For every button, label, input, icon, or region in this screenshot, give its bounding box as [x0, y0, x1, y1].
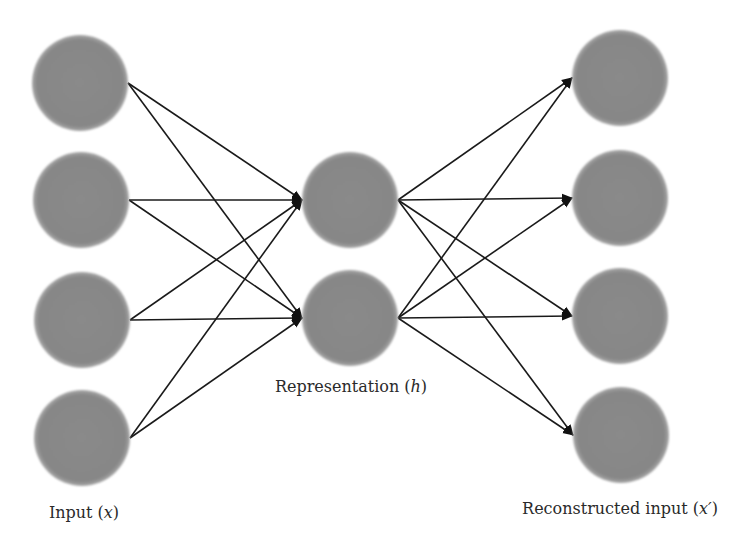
connection-arrow	[128, 83, 302, 200]
input-node-2	[33, 152, 129, 248]
network-graph	[0, 0, 750, 552]
representation-node-2	[302, 270, 398, 366]
reconstructed-node-4	[573, 387, 669, 483]
reconstructed-layer-label: Reconstructed input (x′)	[522, 499, 718, 518]
connection-arrow	[398, 198, 572, 318]
input-node-1	[32, 35, 128, 131]
reconstructed-node-2	[572, 150, 668, 246]
connection-arrow	[398, 316, 572, 318]
connection-arrow	[398, 78, 572, 200]
representation-layer-label: Representation (h)	[275, 377, 427, 396]
autoencoder-diagram: Input (x) Representation (h) Reconstruct…	[0, 0, 750, 552]
input-node-3	[34, 272, 130, 368]
representation-node-1	[302, 152, 398, 248]
reconstructed-node-1	[572, 30, 668, 126]
input-node-4	[34, 390, 130, 486]
input-layer-label: Input (x)	[49, 503, 119, 522]
node-group	[32, 30, 669, 486]
reconstructed-node-3	[572, 268, 668, 364]
